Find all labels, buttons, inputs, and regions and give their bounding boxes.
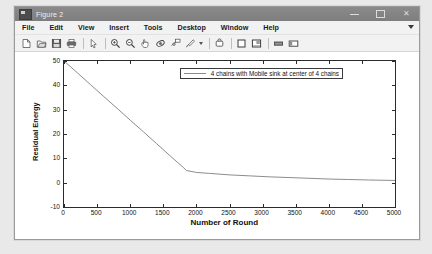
x-tick-top xyxy=(130,61,131,64)
toolbar-separator xyxy=(268,38,269,49)
x-tick-label: 2000 xyxy=(188,209,202,216)
x-tick-top xyxy=(97,61,98,64)
minimize-button[interactable] xyxy=(341,7,367,21)
figure-canvas[interactable]: 4 chains with Mobile sink at center of 4… xyxy=(15,52,419,239)
plot-axes[interactable]: 4 chains with Mobile sink at center of 4… xyxy=(63,60,396,208)
x-tick-label: 1500 xyxy=(155,209,169,216)
figure-icon xyxy=(19,9,32,20)
y-tick-right xyxy=(392,183,395,184)
y-tick xyxy=(64,110,67,111)
x-tick xyxy=(263,204,264,207)
x-tick-label: 500 xyxy=(91,209,102,216)
y-tick-label: 0 xyxy=(45,178,60,185)
x-tick-label: 3000 xyxy=(254,209,268,216)
x-tick xyxy=(196,204,197,207)
x-tick xyxy=(230,204,231,207)
edit-plot-pointer-icon[interactable] xyxy=(87,37,100,50)
x-tick-label: 5000 xyxy=(387,209,401,216)
menu-item-insert[interactable]: Insert xyxy=(109,23,129,32)
x-tick xyxy=(329,204,330,207)
y-tick-label: 10 xyxy=(45,154,60,161)
x-tick-label: 3500 xyxy=(287,209,301,216)
menubar: File Edit View Insert Tools Desktop Wind… xyxy=(15,21,419,35)
print-figure-icon[interactable] xyxy=(65,37,78,50)
y-tick-right xyxy=(392,85,395,86)
hide-plot-tools-icon[interactable] xyxy=(272,37,285,50)
zoom-out-icon[interactable] xyxy=(124,37,137,50)
y-tick-right xyxy=(392,134,395,135)
y-tick-right xyxy=(392,110,395,111)
toolbar-separator xyxy=(83,38,84,49)
y-tick-right xyxy=(392,207,395,208)
close-button[interactable]: ✕ xyxy=(393,7,419,21)
y-tick xyxy=(64,207,67,208)
window-titlebar[interactable]: Figure 2 ✕ xyxy=(15,7,419,21)
y-axis-title: Residual Energy xyxy=(31,102,40,161)
menu-item-help[interactable]: Help xyxy=(263,23,279,32)
x-tick xyxy=(362,204,363,207)
save-figure-icon[interactable] xyxy=(50,37,63,50)
y-tick-label: 30 xyxy=(45,105,60,112)
rotate-3d-icon[interactable] xyxy=(154,37,167,50)
x-tick-top xyxy=(263,61,264,64)
x-tick xyxy=(130,204,131,207)
x-tick-label: 4000 xyxy=(321,209,335,216)
toolbar-separator xyxy=(209,38,210,49)
minimize-icon xyxy=(350,14,359,15)
colorbar-icon[interactable] xyxy=(235,37,248,50)
x-tick-label: 4500 xyxy=(354,209,368,216)
y-tick xyxy=(64,158,67,159)
maximize-button[interactable] xyxy=(367,7,393,21)
figure-window: Figure 2 ✕ File Edit View Insert Tools D… xyxy=(14,6,420,240)
zoom-in-icon[interactable] xyxy=(109,37,122,50)
x-tick xyxy=(163,204,164,207)
x-tick-top xyxy=(196,61,197,64)
x-tick xyxy=(296,204,297,207)
toolbar xyxy=(15,35,419,52)
x-tick-top xyxy=(362,61,363,64)
y-tick xyxy=(64,61,67,62)
legend-label: 4 chains with Mobile sink at center of 4… xyxy=(211,70,339,77)
legend-line-sample xyxy=(184,73,206,74)
insert-legend-icon[interactable] xyxy=(250,37,263,50)
new-figure-icon[interactable] xyxy=(20,37,33,50)
link-plot-icon[interactable] xyxy=(213,37,226,50)
menu-item-view[interactable]: View xyxy=(78,23,94,32)
pan-icon[interactable] xyxy=(139,37,152,50)
y-tick-label: 40 xyxy=(45,81,60,88)
close-icon: ✕ xyxy=(403,10,410,18)
window-controls: ✕ xyxy=(341,7,419,21)
y-tick-right xyxy=(392,158,395,159)
maximize-icon xyxy=(376,10,385,18)
open-file-icon[interactable] xyxy=(35,37,48,50)
menu-item-file[interactable]: File xyxy=(22,23,34,32)
y-tick-label: -10 xyxy=(45,203,60,210)
y-tick xyxy=(64,85,67,86)
brush-select-icon[interactable] xyxy=(184,37,197,50)
y-tick-label: 20 xyxy=(45,130,60,137)
x-tick xyxy=(395,204,396,207)
x-tick-top xyxy=(163,61,164,64)
x-tick xyxy=(97,204,98,207)
y-tick-label: 50 xyxy=(45,57,60,64)
x-tick-label: 0 xyxy=(61,209,65,216)
x-tick-label: 2500 xyxy=(221,209,235,216)
data-cursor-icon[interactable] xyxy=(169,37,182,50)
y-tick-right xyxy=(392,61,395,62)
menu-item-desktop[interactable]: Desktop xyxy=(177,23,205,32)
x-tick-top xyxy=(395,61,396,64)
show-plot-tools-icon[interactable] xyxy=(287,37,300,50)
menu-item-window[interactable]: Window xyxy=(221,23,248,32)
y-tick xyxy=(64,134,67,135)
chevron-down-icon[interactable] xyxy=(408,25,414,29)
brush-dropdown-caret-icon[interactable] xyxy=(199,42,203,45)
toolbar-separator xyxy=(105,38,106,49)
menu-item-edit[interactable]: Edit xyxy=(49,23,63,32)
window-title: Figure 2 xyxy=(36,11,63,18)
plot-line-series xyxy=(64,61,395,207)
toolbar-separator xyxy=(231,38,232,49)
x-tick-top xyxy=(329,61,330,64)
menu-item-tools[interactable]: Tools xyxy=(144,23,163,32)
x-axis-title: Number of Round xyxy=(191,218,259,227)
plot-legend[interactable]: 4 chains with Mobile sink at center of 4… xyxy=(180,68,343,79)
